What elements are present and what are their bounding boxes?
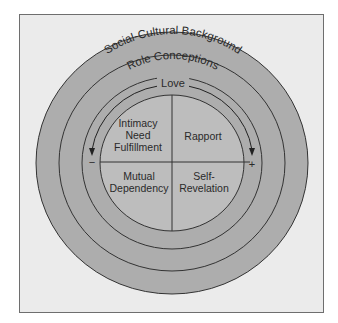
quadrant-rapport: Rapport	[184, 130, 221, 142]
svg-text:Revelation: Revelation	[179, 182, 229, 194]
svg-text:Rapport: Rapport	[184, 130, 221, 142]
wheel-theory-diagram: Social-Cultural Background Role Concepti…	[0, 0, 338, 323]
svg-text:Need: Need	[125, 129, 150, 141]
negative-marker: −	[89, 156, 95, 168]
svg-text:Intimacy: Intimacy	[118, 117, 158, 129]
svg-text:Dependency: Dependency	[110, 182, 170, 194]
positive-marker: +	[249, 158, 255, 170]
svg-text:Self-: Self-	[193, 170, 215, 182]
label-love: Love	[161, 77, 185, 89]
svg-text:Mutual: Mutual	[123, 170, 155, 182]
svg-text:Fulfillment: Fulfillment	[114, 141, 162, 153]
